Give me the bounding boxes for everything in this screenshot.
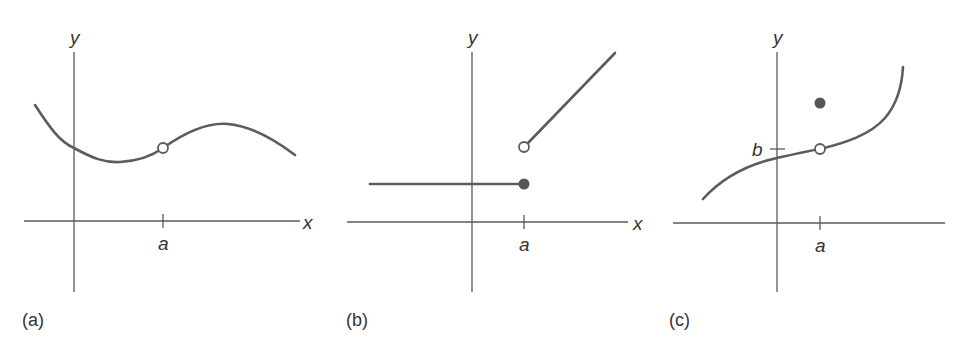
panel-a: y x a (a) (22, 27, 314, 330)
panel-label: (c) (669, 310, 690, 330)
y-axis-label: y (68, 27, 81, 48)
right-increasing-segment (528, 53, 615, 143)
filled-circle (519, 179, 530, 190)
tick-label-a: a (519, 234, 530, 255)
filled-circle (815, 98, 826, 109)
y-axis-label: y (771, 27, 784, 48)
panel-label: (a) (22, 310, 44, 330)
y-axis-label: y (466, 27, 479, 48)
tick-label-a: a (815, 235, 826, 256)
panel-label: (b) (346, 310, 368, 330)
curve (703, 67, 903, 199)
limit-figure: y x a (a) y x a (b) y a b (c) (0, 0, 971, 357)
open-circle (815, 144, 825, 154)
open-circle (158, 143, 168, 153)
panel-c: y a b (c) (669, 27, 945, 330)
open-circle (519, 142, 529, 152)
tick-label-b: b (752, 139, 763, 160)
tick-label-a: a (158, 233, 169, 254)
x-axis-label: x (302, 212, 314, 233)
x-axis-label: x (632, 213, 644, 234)
panel-b: y x a (b) (346, 27, 644, 330)
